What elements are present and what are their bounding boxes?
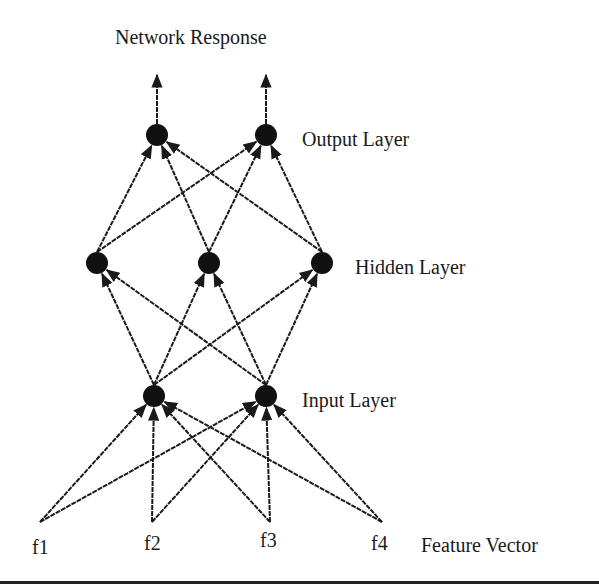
feature-label-f1: f1 [32,537,49,557]
network-graph [0,0,599,586]
edge-f2-i2 [152,405,258,522]
feature-label-f2: f2 [144,533,161,553]
neuron-o1 [146,124,168,146]
edge-f4-i1 [165,402,382,522]
edge-f3-i1 [162,405,270,522]
edge-h1-o2 [97,142,256,252]
edge-i2-h3 [266,274,317,385]
neuron-h1 [86,252,108,274]
neuron-nodes [86,124,333,407]
edge-f1-i1 [40,405,146,522]
output-layer-label: Output Layer [302,129,409,149]
neuron-h3 [311,252,333,274]
edge-f2-i1 [152,408,154,522]
edge-h2-o2 [209,146,261,252]
bottom-divider [0,581,599,584]
neuron-i2 [255,385,277,407]
hidden-layer-label: Hidden Layer [355,257,466,277]
neural-network-diagram: Network Response Output Layer Hidden Lay… [0,0,599,586]
edge-f3-i2 [266,408,270,522]
neuron-i1 [143,385,165,407]
feature-label-f4: f4 [371,533,388,553]
input-layer-label: Input Layer [302,390,396,410]
neuron-h2 [198,252,220,274]
edge-h3-o2 [271,146,322,252]
feature-vector-label: Feature Vector [421,535,538,555]
edge-i1-h1 [102,274,154,385]
network-response-label: Network Response [115,27,267,47]
edge-h2-o1 [162,146,209,252]
edge-i1-h3 [154,270,312,385]
edge-h1-o1 [97,146,152,252]
edge-i2-h2 [214,274,266,385]
feature-label-f3: f3 [260,530,277,550]
edge-i2-h1 [107,270,266,385]
edge-f4-i2 [274,405,382,522]
edge-i1-h2 [154,274,204,385]
neuron-o2 [255,124,277,146]
edge-f1-i2 [40,402,256,522]
edge-h3-o1 [167,142,322,252]
